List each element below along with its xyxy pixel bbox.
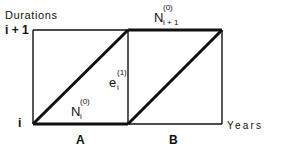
diagonal-b	[128, 30, 222, 124]
region-b-label: B	[169, 133, 178, 147]
y-tick-bottom: i	[18, 116, 21, 130]
bottom-segment-label: N (0) i	[71, 105, 80, 118]
middle-line-label: e (1) i	[109, 76, 116, 89]
region-a-label: A	[76, 133, 85, 147]
x-axis-title: Years	[227, 120, 263, 131]
lexis-diagram	[0, 0, 281, 162]
y-axis-title: Durations	[5, 9, 57, 21]
top-segment-label: N (0) i + 1	[154, 11, 163, 24]
y-tick-top: i + 1	[5, 23, 29, 37]
